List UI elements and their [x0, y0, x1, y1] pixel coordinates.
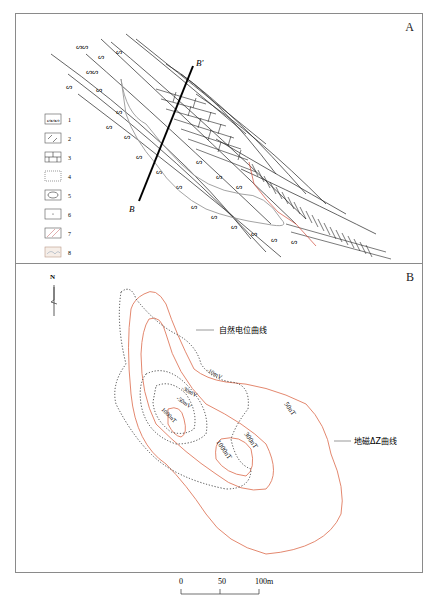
svg-text:ᔕ: ᔕ — [191, 203, 197, 211]
svg-text:ᔕ: ᔕ — [156, 168, 162, 176]
svg-text:3: 3 — [68, 155, 71, 161]
legend-item-3: 3 — [45, 152, 71, 162]
svg-text:4: 4 — [68, 174, 71, 180]
legend-item-8: 8 — [45, 247, 71, 257]
svg-text:ᔕ: ᔕ — [236, 183, 242, 191]
svg-text:ᔕ: ᔕ — [211, 213, 217, 221]
section-start-label: B — [129, 204, 135, 214]
svg-text:7: 7 — [68, 231, 71, 237]
sp-label-30mV: -30mV — [181, 385, 199, 399]
svg-text:ᔕ: ᔕ — [136, 153, 142, 161]
scale-tick-50: 50 — [218, 577, 226, 586]
panel-a-geologic-map: A ᔕᔕᔕᔕ ᔕᔕᔕᔕ ᔕᔕᔕ ᔕᔕᔕ ᔕᔕ — [15, 13, 423, 264]
north-arrow-icon: N — [50, 273, 57, 316]
svg-text:ᔕ: ᔕ — [176, 183, 182, 191]
section-line-b — [139, 66, 193, 201]
legend-item-6: 6 — [45, 209, 71, 219]
mag-label-300nT: 300nT — [242, 431, 259, 451]
section-end-label: B' — [196, 58, 204, 68]
svg-text:ᔕ: ᔕ — [66, 83, 72, 91]
svg-text:8: 8 — [68, 250, 71, 256]
svg-text:ᔕ: ᔕ — [98, 53, 104, 61]
strata-lines — [51, 34, 376, 257]
svg-text:ᔕ: ᔕ — [271, 236, 277, 244]
legend-item-4: 4 — [45, 171, 71, 181]
svg-text:6: 6 — [68, 212, 71, 218]
svg-text:ᔕ: ᔕ — [251, 230, 257, 238]
sp-label-50mV: -50mV — [175, 395, 193, 410]
scale-bar: 0 50 100m — [178, 574, 288, 598]
legend-item-1: ᔕᔕᔕ 1 — [45, 114, 71, 124]
sp-label-10mV: -10mV — [206, 367, 224, 381]
legend-item-5: 5 — [45, 190, 71, 200]
mag-label-1000nT-a: 1000nT — [160, 406, 178, 424]
scale-tick-100: 100m — [255, 577, 274, 586]
svg-text:ᔕᔕ: ᔕᔕ — [76, 43, 88, 51]
scale-line — [181, 589, 259, 594]
svg-text:ᔕ: ᔕ — [106, 123, 112, 131]
svg-text:ᔕᔕ: ᔕᔕ — [86, 68, 98, 76]
geologic-map-drawing: ᔕᔕᔕᔕ ᔕᔕᔕᔕ ᔕᔕᔕ ᔕᔕᔕ ᔕᔕᔕ ᔕᔕᔕ ᔕᔕᔕ B B' ᔕᔕᔕ 1 — [16, 14, 424, 265]
svg-text:2: 2 — [68, 136, 71, 142]
svg-text:ᔕ: ᔕ — [231, 223, 237, 231]
svg-text:ᔕ: ᔕ — [96, 86, 102, 94]
legend-item-7: 7 — [45, 228, 71, 238]
svg-text:ᔕ: ᔕ — [291, 238, 297, 246]
scale-tick-0: 0 — [179, 577, 183, 586]
svg-text:N: N — [50, 273, 55, 281]
sp-callout-label: 自然电位曲线 — [219, 325, 267, 335]
svg-text:ᔕ: ᔕ — [216, 173, 222, 181]
mag-contour-300nT — [141, 318, 274, 490]
legend: ᔕᔕᔕ 1 2 3 4 5 — [45, 114, 71, 257]
contour-drawing: N -10mV -30mV -50mV 50nT 300nT 1000nT 10… — [16, 264, 424, 574]
mag-callout-label: 地磁ΔZ曲线 — [354, 436, 397, 446]
svg-text:1: 1 — [68, 117, 71, 123]
mag-label-50nT: 50nT — [282, 401, 297, 418]
sandstone-hatch-zone — [252, 164, 391, 259]
mag-label-1000nT-b: 1000nT — [214, 439, 233, 462]
svg-text:ᔕ: ᔕ — [116, 108, 122, 116]
svg-text:ᔕᔕᔕ: ᔕᔕᔕ — [47, 118, 60, 123]
svg-text:5: 5 — [68, 193, 71, 199]
svg-text:ᔕ: ᔕ — [196, 158, 202, 166]
svg-text:ᔕ: ᔕ — [124, 133, 130, 141]
svg-text:ᔕ: ᔕ — [116, 48, 122, 56]
legend-item-2: 2 — [45, 133, 71, 143]
panel-b-contour-map: B N -10mV -30mV -50mV 50nT 300nT 1000nT … — [15, 263, 423, 573]
